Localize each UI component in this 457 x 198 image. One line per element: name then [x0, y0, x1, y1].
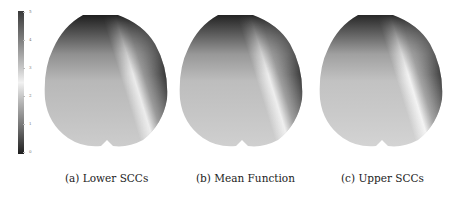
colorbar-tickmark [23, 124, 25, 125]
caption-lower-sccs: (a) Lower SCCs [65, 172, 148, 184]
colorbar-tick-label: 0 [29, 150, 32, 154]
colorbar-tickmark [23, 68, 25, 69]
colorbar-tickmark [23, 96, 25, 97]
caption-upper-sccs: (c) Upper SCCs [341, 172, 424, 184]
colorbar [18, 11, 24, 154]
colorbar-tick-label: 2 [29, 94, 32, 98]
heatmap-panel-upper [318, 14, 444, 148]
colorbar-tickmark [23, 152, 25, 153]
caption-mean-function: (b) Mean Function [196, 172, 295, 184]
colorbar-tick-label: 1 [29, 122, 32, 126]
heatmap-panel-mean [178, 14, 304, 148]
colorbar-tickmark [23, 12, 25, 13]
colorbar-tick-label: 4 [29, 38, 32, 42]
colorbar-tickmark [23, 40, 25, 41]
colorbar-tick-label: 3 [29, 66, 32, 70]
heatmap-panel-lower [43, 14, 169, 148]
colorbar-tick-label: 5 [29, 10, 32, 14]
